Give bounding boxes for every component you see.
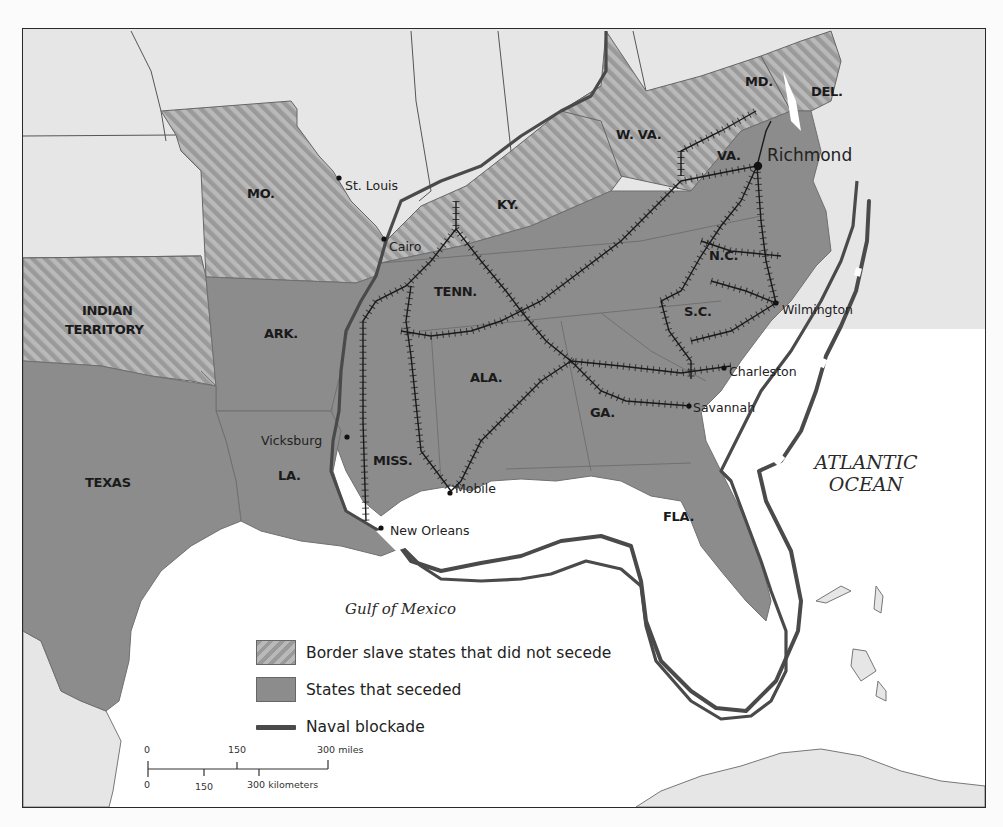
legend-item-naval-blockade: Naval blockade [256, 718, 425, 736]
bahamas [816, 586, 886, 701]
state-label-florida: FLA. [663, 509, 694, 524]
solid-swatch-icon [256, 677, 296, 702]
water-label-gulf-of-mexico: Gulf of Mexico [345, 600, 456, 618]
state-label-north-carolina: N.C. [709, 248, 738, 263]
scale-miles-150: 150 [228, 744, 246, 755]
water-label-atlantic-line1: ATLANTIC [803, 451, 929, 473]
state-label-delaware: DEL. [811, 84, 843, 99]
city-label-new-orleans: New Orleans [390, 523, 469, 538]
state-label-west-virginia: W. VA. [616, 127, 661, 142]
legend-item-border-states: Border slave states that did not secede [256, 640, 611, 665]
water-label-atlantic: ATLANTIC OCEAN [803, 451, 929, 495]
blockade-line-icon [256, 725, 296, 730]
state-label-indian-territory-1: INDIAN [82, 303, 133, 318]
city-label-vicksburg: Vicksburg [261, 433, 322, 448]
legend-label-seceded-states: States that seceded [306, 681, 461, 699]
state-label-maryland: MD. [745, 74, 773, 89]
scale-miles-0: 0 [144, 744, 150, 755]
city-label-richmond: Richmond [767, 145, 852, 165]
legend-label-border-states: Border slave states that did not secede [306, 644, 611, 662]
city-label-charleston: Charleston [729, 364, 797, 379]
legend-label-naval-blockade: Naval blockade [306, 718, 425, 736]
state-label-georgia: GA. [590, 405, 615, 420]
city-label-savannah: Savannah [693, 400, 755, 415]
scale-bar [148, 760, 328, 777]
scale-km-300: 300 kilometers [247, 779, 318, 790]
state-label-louisiana: LA. [278, 468, 301, 483]
state-label-indian-territory-2: TERRITORY [65, 322, 144, 337]
city-label-wilmington: Wilmington [782, 302, 853, 317]
hatched-swatch-icon [256, 640, 296, 665]
scale-miles-300: 300 miles [317, 744, 363, 755]
cuba-land [636, 749, 985, 807]
state-label-kentucky: KY. [497, 197, 518, 212]
state-label-mississippi: MISS. [373, 453, 412, 468]
water-label-atlantic-line2: OCEAN [803, 473, 929, 495]
legend-item-seceded-states: States that seceded [256, 677, 461, 702]
state-label-south-carolina: S.C. [684, 304, 712, 319]
scale-km-0: 0 [144, 779, 150, 790]
state-label-alabama: ALA. [470, 370, 502, 385]
state-label-texas: TEXAS [85, 475, 131, 490]
city-label-st-louis: St. Louis [345, 178, 398, 193]
city-label-mobile: Mobile [455, 481, 496, 496]
state-label-arkansas: ARK. [264, 326, 298, 341]
state-label-tennessee: TENN. [434, 284, 477, 299]
city-label-cairo: Cairo [389, 239, 421, 254]
state-texas [23, 361, 241, 711]
scale-km-150: 150 [195, 781, 213, 792]
state-label-virginia: VA. [717, 148, 741, 163]
state-label-missouri: MO. [247, 186, 275, 201]
